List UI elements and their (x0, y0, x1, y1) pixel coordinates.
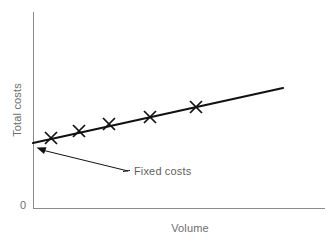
chart-background (0, 0, 334, 244)
origin-label: 0 (20, 199, 26, 211)
x-axis-label: Volume (171, 222, 209, 234)
fixed-costs-annotation-label: Fixed costs (134, 165, 192, 177)
y-axis-label: Total costs (11, 83, 23, 137)
chart-figure: Total costs Volume 0 Fixed costs (0, 0, 334, 244)
scatter-chart-canvas: Total costs Volume 0 Fixed costs (0, 0, 334, 244)
